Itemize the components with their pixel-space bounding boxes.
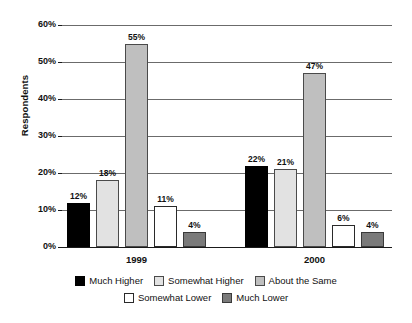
bar-much-lower-2000[interactable] [361,232,384,247]
legend-item-much-higher[interactable]: Much Higher [75,275,143,286]
y-axis-tick-label: 0% [12,241,56,251]
gridline [62,247,392,248]
bar-chart: Respondents 0%10%20%30%40%50%60% 12%18%5… [0,0,412,323]
legend-swatch-much-lower [222,293,232,303]
bar-about-same-1999[interactable] [125,44,148,248]
bar-somewhat-lower-2000[interactable] [332,225,355,247]
bar-value-label: 21% [268,157,303,167]
bar-value-label: 47% [297,61,332,71]
bar-much-higher-1999[interactable] [67,203,90,247]
legend-row-secondary: Somewhat LowerMuch Lower [0,289,412,306]
legend-label: Much Higher [89,275,143,286]
y-axis-tick-label: 30% [12,130,56,140]
legend-label: Somewhat Lower [138,292,211,303]
y-axis-tick-label: 20% [12,167,56,177]
gridline [62,62,392,63]
bar-value-label: 4% [177,220,212,230]
y-axis-tick-label: 50% [12,56,56,66]
bar-somewhat-lower-1999[interactable] [154,206,177,247]
bar-value-label: 11% [148,194,183,204]
legend-row-primary: Much HigherSomewhat HigherAbout the Same [0,272,412,289]
bar-value-label: 18% [90,168,125,178]
legend-label: About the Same [269,275,337,286]
gridline [62,99,392,100]
legend-swatch-much-higher [75,276,85,286]
gridline [62,25,392,26]
plot-area: 12%18%55%11%4%22%21%47%6%4% [62,25,392,247]
bar-value-label: 4% [355,220,390,230]
bar-much-lower-1999[interactable] [183,232,206,247]
bar-about-same-2000[interactable] [303,73,326,247]
legend-label: Somewhat Higher [168,275,244,286]
bar-much-higher-2000[interactable] [245,166,268,247]
y-axis-tick-label: 10% [12,204,56,214]
legend-swatch-about-same [255,276,265,286]
bar-somewhat-higher-2000[interactable] [274,169,297,247]
legend-swatch-somewhat-lower [124,293,134,303]
bar-value-label: 55% [119,32,154,42]
legend-item-somewhat-lower[interactable]: Somewhat Lower [124,292,211,303]
y-axis-tick-label: 60% [12,19,56,29]
legend-item-much-lower[interactable]: Much Lower [222,292,288,303]
category-label-1999: 1999 [107,254,167,265]
legend-label: Much Lower [236,292,288,303]
gridline [62,136,392,137]
legend-item-about-same[interactable]: About the Same [255,275,337,286]
bar-value-label: 12% [61,191,96,201]
y-axis-tick-label: 40% [12,93,56,103]
legend-swatch-somewhat-higher [154,276,164,286]
bar-somewhat-higher-1999[interactable] [96,180,119,247]
category-label-2000: 2000 [285,254,345,265]
legend-item-somewhat-higher[interactable]: Somewhat Higher [154,275,244,286]
chart-legend: Much HigherSomewhat HigherAbout the Same… [0,272,412,306]
